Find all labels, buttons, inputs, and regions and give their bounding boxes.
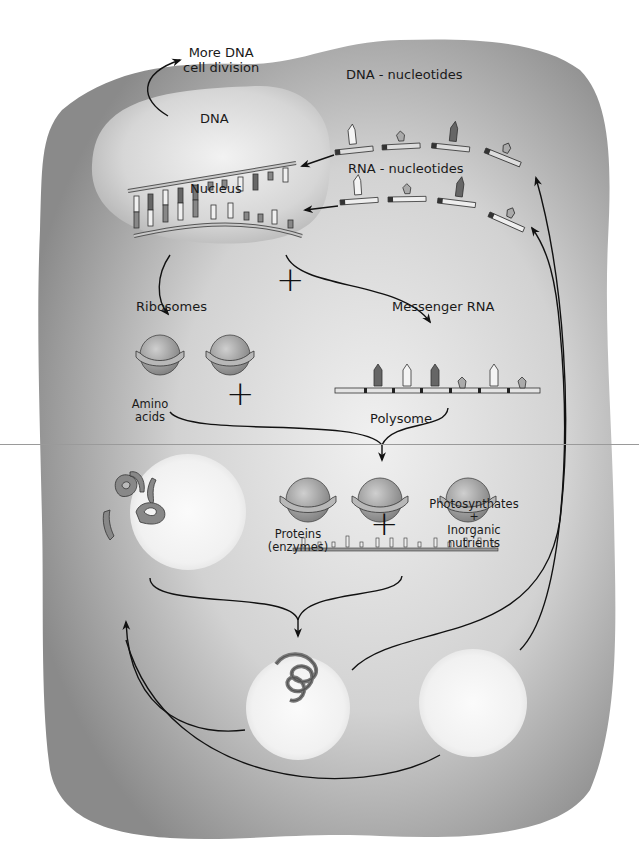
plus-amino-polysome: + (226, 376, 255, 410)
amino-acids-circle (130, 454, 246, 570)
more-dna-label: More DNA cell division (183, 46, 259, 76)
polysome-label: Polysome (370, 412, 432, 427)
amino-line2: acids (120, 411, 180, 424)
photosynthates-label: Photosynthates + Inorganic nutrients (418, 498, 530, 550)
dna-label: DNA (200, 112, 229, 127)
proteins-circle (246, 656, 350, 760)
amino-acids-label: Amino acids (120, 398, 180, 424)
diagram-canvas (0, 0, 639, 854)
more-dna-line1: More DNA (183, 46, 259, 61)
nucleus-label: Nucleus (190, 182, 242, 197)
photosynthates-line3: nutrients (418, 537, 530, 550)
photosynthates-circle (419, 649, 527, 757)
photosynthates-plus: + (418, 511, 530, 524)
plus-ribosomes-mrna: + (276, 262, 305, 296)
scan-artifact-line (0, 444, 639, 445)
messenger-rna-label: Messenger RNA (392, 300, 494, 315)
dna-nucleotides-label: DNA - nucleotides (346, 68, 463, 83)
more-dna-line2: cell division (183, 61, 259, 76)
proteins-label: Proteins (enzymes) (258, 528, 338, 554)
plus-proteins-photosynthates: + (370, 506, 399, 540)
protein-synthesis-diagram: More DNA cell division DNA - nucleotides… (0, 0, 639, 854)
ribosomes-label: Ribosomes (136, 300, 207, 315)
proteins-line2: (enzymes) (258, 541, 338, 554)
rna-nucleotides-label: RNA - nucleotides (348, 162, 464, 177)
